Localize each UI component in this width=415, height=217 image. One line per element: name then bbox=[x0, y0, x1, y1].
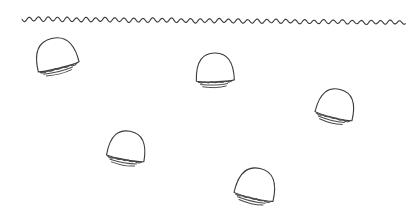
jellyfish-layer bbox=[31, 33, 358, 208]
jellyfish-2-tentacle-2 bbox=[201, 84, 228, 86]
jellyfish-4 bbox=[105, 128, 148, 169]
jellyfish-1 bbox=[31, 33, 81, 78]
jellyfish-2-tentacle-3 bbox=[203, 86, 227, 88]
jellyfish-5-bell bbox=[234, 164, 280, 203]
jellyfish-5 bbox=[232, 164, 279, 208]
water-surface-wave bbox=[22, 17, 405, 25]
jellyfish-2 bbox=[195, 52, 234, 88]
drawing-canvas bbox=[0, 0, 415, 217]
jellyfish-2-bell bbox=[195, 52, 234, 82]
jellyfish-scene-svg bbox=[0, 0, 415, 217]
jellyfish-3-bell bbox=[315, 85, 359, 122]
jellyfish-3 bbox=[313, 85, 358, 128]
water-surface-layer bbox=[22, 17, 405, 25]
